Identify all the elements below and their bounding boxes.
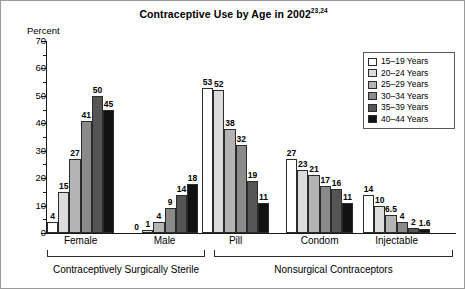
chart-title-text: Contraceptive Use by Age in 2002 (139, 8, 310, 20)
bar-condom-15-19- (286, 159, 297, 233)
bar-pill-35-39- (247, 181, 258, 233)
y-tick-label-70: 70 (10, 36, 46, 45)
legend-item-1[interactable]: 15–19 Years (368, 56, 450, 68)
group-bracket-1 (47, 250, 205, 257)
group-bracket-label-1: Contraceptively Surgically Sterile (47, 264, 205, 275)
legend-item-label: 35–39 Years (381, 103, 428, 112)
legend-swatch-icon (368, 69, 377, 77)
bar-value-label: 38 (219, 119, 240, 128)
bar-value-label: 52 (208, 80, 229, 89)
bar-female-35-39- (92, 96, 103, 233)
legend-item-6[interactable]: 40–44 Years (368, 114, 450, 126)
x-group-label-injectable: Injectable (345, 235, 448, 246)
bar-value-label: 50 (87, 86, 108, 95)
bar-condom-30-34- (320, 186, 331, 233)
y-tick-label-50: 50 (10, 91, 46, 100)
chart-figure: Contraceptive Use by Age in 200223,24 Pe… (0, 0, 465, 289)
legend-swatch-icon (368, 58, 377, 66)
legend-item-3[interactable]: 25–29 Years (368, 79, 450, 91)
bar-value-label: 1.6 (414, 219, 435, 228)
bar-pill-40-44- (258, 203, 269, 233)
legend-item-label: 40–44 Years (381, 115, 428, 124)
group-bracket-label-2: Nonsurgical Contraceptors (214, 264, 453, 275)
bar-injectable-35-39- (408, 228, 419, 233)
y-tick-label-30: 30 (10, 146, 46, 155)
bar-value-label: 11 (253, 193, 274, 202)
bar-value-label: 45 (98, 100, 119, 109)
legend-item-4[interactable]: 30–34 Years (368, 91, 450, 103)
bar-pill-30-34- (236, 145, 247, 233)
bar-male-35-39- (176, 195, 187, 233)
group-bracket-2 (214, 250, 453, 257)
chart-title: Contraceptive Use by Age in 200223,24 (1, 7, 465, 20)
chart-legend: 15–19 Years20–24 Years25–29 Years30–34 Y… (363, 52, 455, 129)
legend-item-label: 15–19 Years (381, 57, 428, 66)
legend-item-label: 30–34 Years (381, 92, 428, 101)
legend-item-2[interactable]: 20–24 Years (368, 68, 450, 80)
y-tick-label-20: 20 (10, 173, 46, 182)
bar-female-25-29- (69, 159, 80, 233)
bar-value-label: 32 (231, 135, 252, 144)
bar-condom-40-44- (342, 203, 353, 233)
legend-item-label: 25–29 Years (381, 80, 428, 89)
legend-swatch-icon (368, 81, 377, 89)
y-tick-label-10: 10 (10, 201, 46, 210)
bar-female-40-44- (103, 110, 114, 233)
bar-male-30-34- (165, 208, 176, 233)
bar-value-label: 18 (182, 174, 203, 183)
bar-condom-20-24- (297, 170, 308, 233)
legend-swatch-icon (368, 104, 377, 112)
bar-female-20-24- (58, 192, 69, 233)
bar-value-label: 21 (303, 165, 324, 174)
legend-item-5[interactable]: 35–39 Years (368, 102, 450, 114)
bar-injectable-40-44- (419, 229, 430, 233)
bar-value-label: 27 (281, 149, 302, 158)
chart-title-superscript: 23,24 (311, 7, 328, 14)
bar-value-label: 19 (242, 171, 263, 180)
bar-female-30-34- (81, 121, 92, 233)
y-tick-label-60: 60 (10, 63, 46, 72)
legend-swatch-icon (368, 92, 377, 100)
bar-value-label: 14 (358, 185, 379, 194)
bar-pill-20-24- (213, 90, 224, 233)
bar-pill-25-29- (224, 129, 235, 233)
bar-male-25-29- (153, 222, 164, 233)
y-tick-label-40: 40 (10, 118, 46, 127)
bar-male-20-24- (142, 230, 153, 233)
bar-value-label: 16 (326, 179, 347, 188)
bar-pill-15-19- (202, 88, 213, 233)
legend-item-label: 20–24 Years (381, 69, 428, 78)
bar-female-15-19- (47, 222, 58, 233)
x-axis-line (46, 233, 456, 234)
legend-swatch-icon (368, 115, 377, 123)
bar-value-label: 11 (337, 193, 358, 202)
bar-male-40-44- (187, 184, 198, 233)
